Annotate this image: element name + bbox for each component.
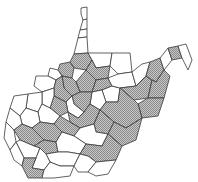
county-hancock bbox=[81, 7, 87, 20]
county-preston bbox=[110, 53, 132, 74]
county-map bbox=[0, 0, 198, 182]
county-ohio bbox=[78, 29, 87, 38]
counties-layer bbox=[4, 7, 192, 178]
county-marshall bbox=[74, 37, 88, 54]
county-brooke bbox=[80, 19, 87, 30]
county-pendleton bbox=[138, 98, 164, 118]
county-tucker bbox=[108, 72, 136, 88]
